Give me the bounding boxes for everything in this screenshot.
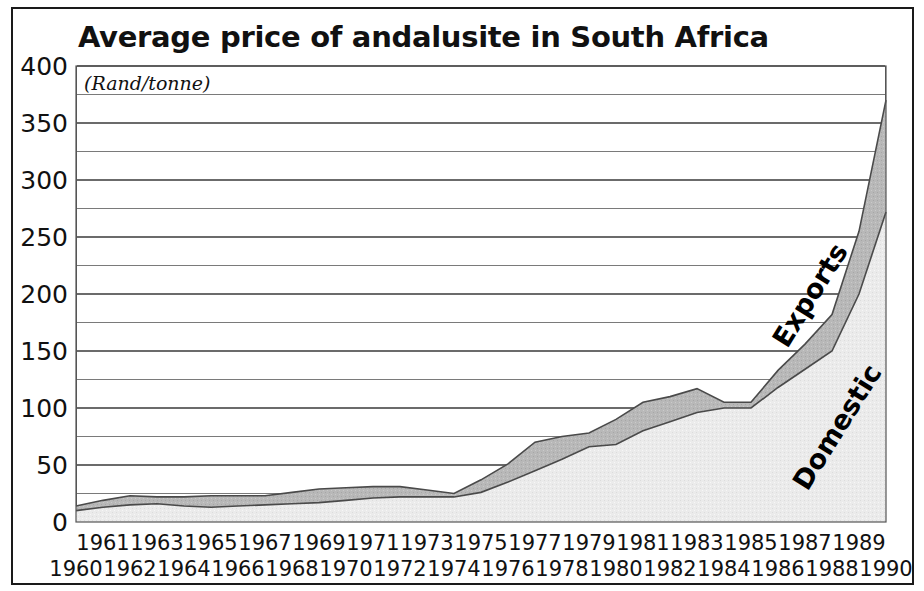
x-tick-label: 1965 — [184, 531, 237, 555]
x-tick-label: 1987 — [778, 531, 831, 555]
chart-page: Average price of andalusite in South Afr… — [0, 0, 924, 591]
x-tick-label: 1970 — [319, 557, 372, 581]
x-tick-label: 1979 — [562, 531, 615, 555]
x-tick-label: 1963 — [130, 531, 183, 555]
x-tick-label: 1973 — [400, 531, 453, 555]
x-tick-label: 1981 — [616, 531, 669, 555]
x-tick-label: 1972 — [373, 557, 426, 581]
x-tick-label: 1975 — [454, 531, 507, 555]
x-tick-label: 1974 — [427, 557, 480, 581]
x-tick-label: 1966 — [211, 557, 264, 581]
x-tick-label: 1980 — [589, 557, 642, 581]
x-tick-label: 1990 — [859, 557, 912, 581]
x-tick-label: 1976 — [481, 557, 534, 581]
x-tick-label: 1977 — [508, 531, 561, 555]
x-tick-label: 1962 — [103, 557, 156, 581]
x-tick-label: 1984 — [697, 557, 750, 581]
x-tick-label: 1989 — [832, 531, 885, 555]
x-tick-label: 1968 — [265, 557, 318, 581]
x-tick-label: 1988 — [805, 557, 858, 581]
x-tick-label: 1986 — [751, 557, 804, 581]
x-tick-label: 1978 — [535, 557, 588, 581]
x-tick-label: 1967 — [238, 531, 291, 555]
x-tick-label: 1960 — [49, 557, 102, 581]
axis-units-label: (Rand/tonne) — [84, 72, 211, 94]
x-tick-label: 1985 — [724, 531, 777, 555]
x-tick-label: 1983 — [670, 531, 723, 555]
x-tick-label: 1961 — [76, 531, 129, 555]
x-tick-label: 1969 — [292, 531, 345, 555]
x-tick-label: 1982 — [643, 557, 696, 581]
x-tick-label: 1964 — [157, 557, 210, 581]
x-tick-label: 1971 — [346, 531, 399, 555]
